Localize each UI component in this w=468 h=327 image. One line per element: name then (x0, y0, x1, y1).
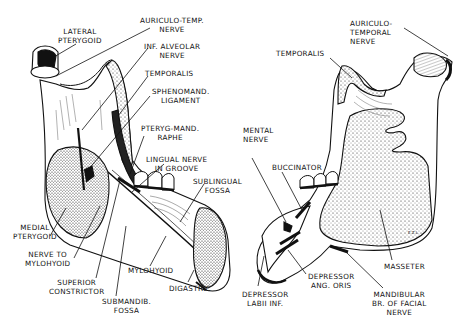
label-masseter: MASSETER (384, 262, 425, 271)
label-lingual-nerve-in-groove: LINGUAL NERVE IN GROOVE (146, 155, 207, 173)
label-buccinator: BUCCINATOR (272, 163, 322, 172)
label-depressor-labii-inf: DEPRESSOR LABII INF. (242, 290, 288, 308)
label-medial-pterygoid: MEDIAL PTERYGOID (13, 223, 57, 241)
label-submandib-fossa: SUBMANDIB. FOSSA (102, 297, 151, 315)
label-depressor-ang-oris: DEPRESSOR ANG. ORIS (308, 272, 354, 290)
label-superior-constrictor: SUPERIOR CONSTRICTOR (49, 278, 104, 296)
label-nerve-to-mylohyoid: NERVE TO MYLOHYOID (25, 250, 70, 268)
artist-signature: E.Z.L. (408, 230, 419, 235)
label-mylohyoid: MYLOHYOID (128, 266, 173, 275)
label-temporalis-medial: TEMPORALIS (145, 69, 193, 78)
label-mental-nerve: MENTAL NERVE (243, 126, 274, 144)
label-inf-alveolar-nerve: INF. ALVEOLAR NERVE (144, 42, 200, 60)
label-mandibular-br-facial-nerve: MANDIBULAR BR. OF FACIAL NERVE (372, 290, 427, 317)
label-auriculo-temporal-nerve: AURICULO- TEMPORAL NERVE (350, 19, 392, 46)
label-lateral-pterygoid: LATERAL PTERYGOID (58, 27, 102, 45)
mandible-muscle-attachment-diagram: LATERAL PTERYGOID AURICULO-TEMP. NERVE I… (0, 0, 468, 327)
label-auriculo-temp-nerve: AURICULO-TEMP. NERVE (140, 16, 204, 34)
label-pteryg-mand-raphe: PTERYG-MAND. RAPHE (141, 124, 199, 142)
label-sublingual-fossa: SUBLINGUAL FOSSA (193, 177, 242, 195)
label-sphenomand-ligament: SPHENOMAND. LIGAMENT (152, 87, 210, 105)
label-digastric: DIGASTRIC (169, 284, 211, 293)
label-temporalis-lateral: TEMPORALIS (276, 49, 324, 58)
